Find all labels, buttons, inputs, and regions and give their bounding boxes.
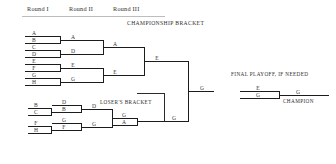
lb-r3-rail-d bbox=[81, 109, 113, 110]
cb-loser-feed-vertical bbox=[164, 93, 165, 122]
grand-final-winner-rail bbox=[188, 91, 214, 92]
lb-r2-rail-f bbox=[52, 130, 82, 131]
cb-r2-rail-d bbox=[60, 54, 104, 55]
playoff-winner-rail bbox=[279, 95, 329, 96]
cb-r1-rail-h bbox=[25, 85, 61, 86]
cb-r3-rail-e bbox=[103, 75, 145, 76]
lb-r1-rail-h bbox=[28, 133, 52, 134]
playoff-rail-g bbox=[240, 98, 280, 99]
cb-r2-rail-g bbox=[60, 82, 104, 83]
cb-r2-rail-a bbox=[60, 40, 104, 41]
final-playoff-title: FINAL PLAYOFF, IF NEEDED bbox=[231, 72, 308, 77]
championship-bracket-title: CHAMPIONSHIP BRACKET bbox=[127, 21, 204, 27]
bracket-page: Round I Round II Round III CHAMPIONSHIP … bbox=[0, 0, 336, 164]
lb-r2-rail-b bbox=[52, 112, 82, 113]
round-header-3: Round III bbox=[113, 6, 139, 12]
champion-label: CHAMPION bbox=[283, 99, 314, 104]
losers-bracket-title: LOSER'S BRACKET bbox=[100, 100, 152, 105]
round-header-1: Round I bbox=[27, 6, 49, 12]
cb-r4-rail-e bbox=[144, 61, 188, 62]
lb-r3-rail-g bbox=[81, 127, 113, 128]
cb-r3-rail-a bbox=[103, 47, 145, 48]
round-header-2: Round II bbox=[69, 6, 93, 12]
lb-winner-rail-g bbox=[137, 121, 189, 122]
header-divider bbox=[22, 16, 165, 17]
losers-title-rail bbox=[137, 93, 165, 94]
cb-r2-rail-e bbox=[60, 68, 104, 69]
lb-r4-rail-a bbox=[112, 125, 138, 126]
lb-r1-rail-c bbox=[28, 115, 52, 116]
